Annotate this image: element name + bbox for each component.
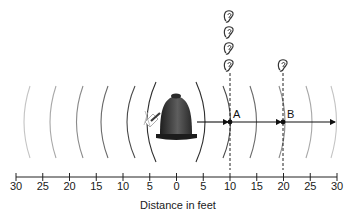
sound-distance-diagram: A B 30 25 20 15 10 5 0 5 10 15 20 25 30 … — [0, 0, 352, 215]
point-b-label: B — [287, 108, 294, 120]
tick-label: 20 — [272, 180, 296, 192]
tick-label: 30 — [325, 180, 349, 192]
point-b-dot — [281, 120, 286, 125]
ear-icon — [277, 58, 289, 73]
axis-title: Distance in feet — [0, 199, 352, 211]
tick-label: 5 — [191, 180, 215, 192]
tick-label: 15 — [245, 180, 269, 192]
tick-label: 15 — [84, 180, 108, 192]
bell-icon — [144, 94, 197, 141]
point-a-label: A — [233, 108, 240, 120]
tick-label: 20 — [58, 180, 82, 192]
tick-label: 10 — [111, 180, 135, 192]
ear-icon — [223, 58, 235, 73]
ear-icon — [223, 9, 235, 24]
tick-label: 10 — [218, 180, 242, 192]
tick-label: 5 — [138, 180, 162, 192]
tick-label: 25 — [298, 180, 322, 192]
ear-icon — [223, 41, 235, 56]
tick-label: 0 — [165, 180, 189, 192]
tick-label: 30 — [4, 180, 28, 192]
tick-label: 25 — [31, 180, 55, 192]
point-a-dot — [228, 120, 233, 125]
ear-icon — [223, 25, 235, 40]
